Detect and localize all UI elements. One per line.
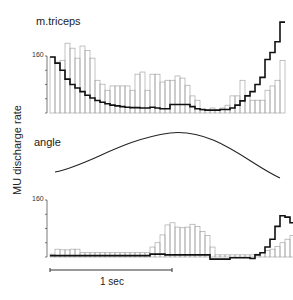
histogram-bar xyxy=(280,243,285,257)
histogram-bar xyxy=(275,80,280,113)
histogram-bar xyxy=(130,90,135,113)
histogram-bar xyxy=(50,57,55,113)
histogram-bar xyxy=(220,255,225,257)
histogram-bar xyxy=(175,227,180,257)
discharge-rate-step-line xyxy=(50,209,293,260)
histogram-bar xyxy=(270,249,275,257)
histogram-bar xyxy=(265,90,270,113)
histogram-bar xyxy=(195,226,200,257)
histogram-bar xyxy=(205,236,210,257)
histogram-bar xyxy=(95,80,100,113)
histogram-bar xyxy=(180,78,185,113)
histogram-bar xyxy=(85,50,90,113)
histogram-bar xyxy=(80,46,85,113)
histogram-bar xyxy=(285,239,290,257)
histogram-bar xyxy=(230,255,235,257)
histogram-bar xyxy=(225,255,230,257)
histogram-bar xyxy=(180,228,185,257)
histogram-bar xyxy=(245,255,250,257)
top-ytick-label: 160 xyxy=(32,51,44,58)
histogram-bar xyxy=(215,255,220,257)
histogram-bar xyxy=(235,255,240,257)
histogram-bar xyxy=(140,72,145,113)
histogram-bar xyxy=(165,225,170,257)
histogram-bar xyxy=(100,84,105,113)
histogram-bar xyxy=(185,85,190,113)
histogram-bar xyxy=(125,86,130,113)
histogram-bar xyxy=(200,231,205,257)
histogram-bar xyxy=(250,100,255,113)
histogram-bar xyxy=(290,236,293,257)
histogram-bar xyxy=(170,223,175,257)
histogram-bar xyxy=(190,224,195,257)
top-panel-title: m.triceps xyxy=(36,15,81,27)
histogram-bar xyxy=(260,100,265,113)
histogram-bar xyxy=(115,86,120,113)
histogram-bar xyxy=(255,100,260,113)
histogram-bar xyxy=(175,76,180,113)
angle-panel-title: angle xyxy=(34,136,61,148)
y-axis-label: MU discharge rate xyxy=(11,95,23,205)
histogram-bar xyxy=(185,227,190,257)
histogram-bar xyxy=(270,86,275,113)
histogram-bar xyxy=(240,255,245,257)
histogram-bar xyxy=(280,60,285,113)
histogram-bar xyxy=(145,90,150,113)
figure-canvas xyxy=(0,0,293,300)
histogram-bar xyxy=(90,58,95,113)
histogram-bar xyxy=(275,246,280,257)
bottom-ytick-label: 160 xyxy=(32,195,44,202)
angle-curve xyxy=(55,133,280,178)
histogram-bar xyxy=(110,86,115,113)
histogram-bar xyxy=(120,86,125,113)
time-scale-label: 1 sec xyxy=(100,276,124,287)
